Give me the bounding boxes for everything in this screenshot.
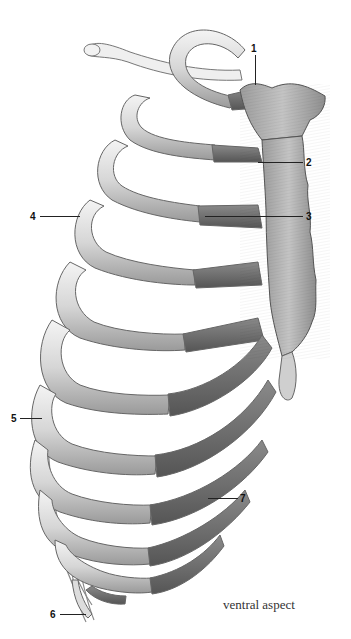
xiphoid-process xyxy=(279,352,296,400)
rib-2 xyxy=(121,95,215,160)
leader-line-7 xyxy=(208,498,238,499)
label-7: 7 xyxy=(240,494,246,504)
rib-cage-illustration xyxy=(0,0,351,639)
sternum xyxy=(240,84,330,400)
clavicle xyxy=(84,43,242,80)
leader-line-1 xyxy=(255,55,256,85)
leader-line-2 xyxy=(258,162,303,163)
label-1: 1 xyxy=(251,44,257,54)
label-2: 2 xyxy=(306,158,312,168)
leader-line-6 xyxy=(60,614,86,615)
leader-line-3 xyxy=(205,216,303,217)
leader-line-5 xyxy=(20,418,42,419)
ribs xyxy=(30,30,276,618)
label-6: 6 xyxy=(50,610,56,620)
figure-caption: ventral aspect xyxy=(223,597,295,613)
rib-12 xyxy=(72,580,92,618)
leader-line-4 xyxy=(40,216,80,217)
label-4: 4 xyxy=(30,212,36,222)
label-5: 5 xyxy=(11,414,17,424)
label-3: 3 xyxy=(306,212,312,222)
